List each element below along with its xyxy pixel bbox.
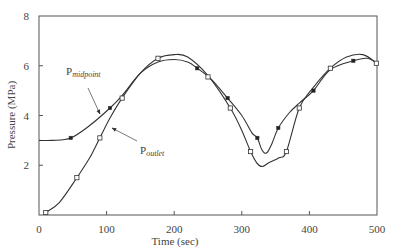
p-outlet-marker bbox=[328, 66, 332, 70]
x-tick-label: 100 bbox=[98, 223, 115, 235]
p-outlet-marker bbox=[284, 149, 288, 153]
p-midpoint-marker bbox=[195, 67, 198, 70]
pressure-time-chart: 01002003004005002468 PmidpointPoutlet Ti… bbox=[0, 0, 400, 252]
p-outlet-marker bbox=[44, 210, 48, 214]
x-tick-label: 500 bbox=[369, 223, 386, 235]
plot-border bbox=[39, 16, 377, 215]
p-midpoint-arrow bbox=[88, 88, 100, 114]
y-tick-label: 2 bbox=[24, 159, 30, 171]
p-outlet-marker bbox=[120, 96, 124, 100]
x-axis-title: Time (sec) bbox=[152, 235, 199, 248]
p-outlet-marker bbox=[374, 61, 378, 65]
p-midpoint-marker bbox=[108, 106, 111, 109]
p-outlet-marker bbox=[297, 106, 301, 110]
x-tick-label: 200 bbox=[166, 223, 183, 235]
p-outlet-label: Poutlet bbox=[140, 144, 165, 158]
p-midpoint-label: Pmidpoint bbox=[66, 65, 101, 79]
y-tick-label: 8 bbox=[24, 10, 30, 22]
y-tick-label: 6 bbox=[24, 60, 30, 72]
p-outlet-marker bbox=[228, 106, 232, 110]
p-midpoint-marker bbox=[69, 136, 72, 139]
x-tick-label: 0 bbox=[36, 223, 42, 235]
p-midpoint-marker bbox=[312, 89, 315, 92]
axis-ticks: 01002003004005002468 bbox=[24, 10, 386, 235]
plot-frame bbox=[39, 16, 377, 215]
series-annotations: PmidpointPoutlet bbox=[66, 65, 165, 158]
p-midpoint-marker bbox=[256, 136, 259, 139]
p-midpoint-marker bbox=[226, 96, 229, 99]
y-axis-title: Pressure (MPa) bbox=[5, 81, 18, 149]
p-outlet-arrow bbox=[112, 128, 137, 141]
p-outlet-marker bbox=[248, 149, 252, 153]
p-outlet-marker bbox=[206, 75, 210, 79]
p-midpoint-marker bbox=[352, 59, 355, 62]
x-tick-label: 300 bbox=[234, 223, 251, 235]
p-midpoint-marker bbox=[277, 126, 280, 129]
p-outlet-marker bbox=[75, 176, 79, 180]
y-tick-label: 4 bbox=[24, 110, 30, 122]
x-tick-label: 400 bbox=[301, 223, 318, 235]
p-outlet-marker bbox=[98, 136, 102, 140]
p-outlet-marker bbox=[156, 56, 160, 60]
